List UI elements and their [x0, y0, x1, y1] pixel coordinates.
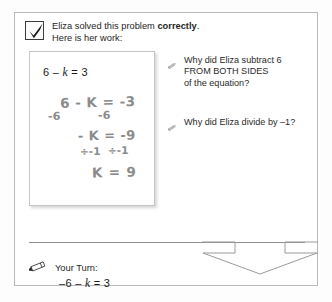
worksheet-frame: Eliza solved this problem correctly. Her… [14, 12, 318, 286]
handwriting-line-2-right: -6 [98, 109, 110, 122]
handwriting-line-2-left: -6 [48, 110, 60, 123]
handwriting-line-4-left: ÷-1 [80, 145, 101, 157]
header-text: Eliza solved this problem correctly. Her… [52, 20, 199, 44]
your-turn-label: Your Turn: [55, 263, 98, 273]
your-turn-equation: –6 – k = 3 [59, 277, 110, 289]
question-text: Why did Eliza subtract 6 FROM BOTH SIDES… [184, 55, 282, 89]
header: Eliza solved this problem correctly. Her… [25, 20, 307, 44]
printed-equation-lhs: 6 – [43, 66, 63, 78]
question-item[interactable]: Why did Eliza subtract 6 FROM BOTH SIDES… [167, 55, 307, 89]
your-turn-equation-lhs: –6 – [59, 277, 85, 289]
pencil-eraser-icon [29, 259, 49, 277]
header-line2: Here is her work: [52, 33, 122, 43]
question-list: Why did Eliza subtract 6 FROM BOTH SIDES… [167, 55, 307, 165]
printed-equation-rhs: = 3 [68, 66, 88, 78]
handwriting-line-5: K = 9 [92, 164, 137, 181]
handwriting-line-4-right: ÷-1 [108, 144, 129, 156]
down-arrow-icon [201, 241, 319, 281]
header-line1-prefix: Eliza solved this problem [52, 21, 157, 31]
question-text: Why did Eliza divide by –1? [184, 117, 295, 128]
checkmark-icon [24, 19, 48, 43]
your-turn-equation-rhs: = 3 [90, 277, 110, 289]
printed-equation: 6 – k = 3 [43, 66, 88, 78]
pencil-icon [167, 57, 178, 75]
student-work-card: 6 – k = 3 6 - K = -3 -6 -6 - K = -9 ÷-1 … [29, 51, 155, 206]
correct-checkbox[interactable] [25, 21, 44, 40]
your-turn-header: Your Turn: [29, 259, 98, 277]
worksheet-page: Eliza solved this problem correctly. Her… [0, 0, 332, 302]
pencil-icon [167, 119, 178, 137]
handwriting-line-3: - K = -9 [78, 127, 136, 143]
header-line1-suffix: . [197, 21, 200, 31]
header-line1-emphasis: correctly [157, 21, 196, 31]
question-item[interactable]: Why did Eliza divide by –1? [167, 117, 307, 137]
